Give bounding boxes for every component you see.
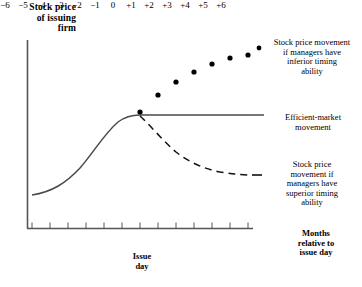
x-tick-label: +6 [210,0,232,10]
data-point [245,52,250,57]
annotation-inferior-timing: Stock price movement if managers have in… [264,38,360,76]
data-point [191,69,196,74]
data-point [173,79,178,84]
data-point [209,61,214,66]
issue-day-label: Issue day [110,252,174,271]
annotation-superior-timing: Stock price movement if managers have su… [264,160,360,208]
data-point [137,109,142,114]
legend-marker-dot [257,46,262,51]
x-axis-title: Months relative to issue day [272,229,360,258]
data-point [227,55,232,60]
superior-timing-curve [140,116,252,175]
inferior-timing-points [137,52,250,114]
data-point [155,92,160,97]
efficient-market-curve [32,115,253,195]
stock-price-issue-day-chart: Stock price of issuing firm [0,0,362,287]
annotation-efficient-market: Efficient-market movement [266,113,360,132]
x-axis-ticks [32,223,248,229]
